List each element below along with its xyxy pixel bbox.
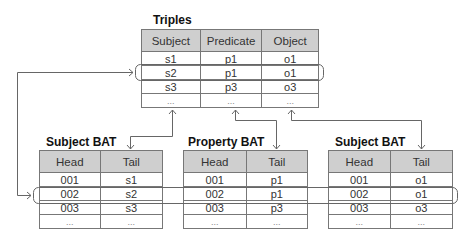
predicate-link-line bbox=[236, 110, 277, 149]
subject-link-line bbox=[131, 110, 173, 149]
connector-overlay bbox=[0, 0, 471, 243]
bat-row-highlight bbox=[34, 188, 458, 204]
row-link-line bbox=[18, 73, 134, 196]
object-link-line bbox=[292, 110, 422, 149]
triples-row-highlight bbox=[136, 65, 324, 81]
